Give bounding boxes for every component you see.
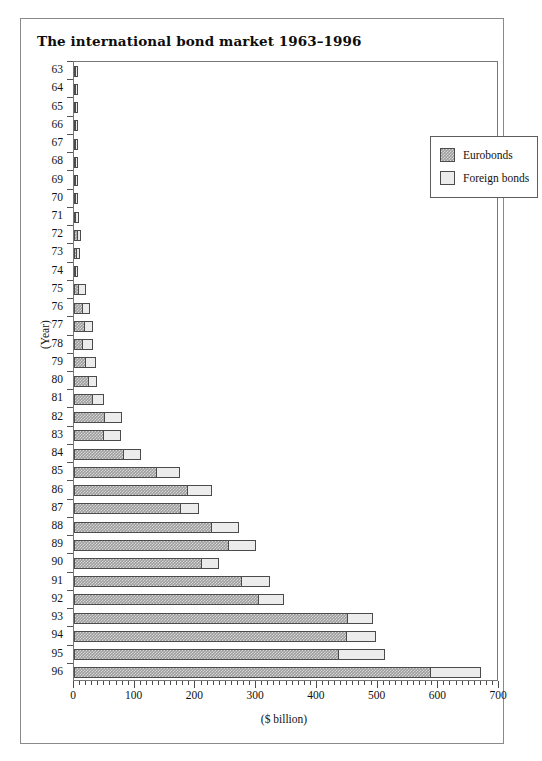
- x-axis-minor-tick: [103, 681, 104, 685]
- bar-segment-foreign-bonds: [202, 558, 219, 569]
- y-axis-tick-label: 69: [52, 174, 64, 185]
- bar-row: [74, 412, 122, 423]
- x-axis-major-tick: [437, 681, 438, 688]
- x-axis-minor-tick: [492, 681, 493, 685]
- bar-segment-eurobonds: [74, 594, 259, 605]
- bar-row: [74, 467, 180, 478]
- bar-row: [74, 376, 97, 387]
- bar-row: [74, 594, 284, 605]
- y-axis-tick-label: 67: [52, 137, 64, 148]
- bar-segment-foreign-bonds: [76, 157, 78, 168]
- x-axis-minor-tick: [286, 681, 287, 685]
- y-axis-tick-label: 71: [52, 210, 64, 221]
- bar-segment-eurobonds: [74, 430, 104, 441]
- bar-segment-foreign-bonds: [76, 175, 78, 186]
- x-axis-major-tick: [316, 681, 317, 688]
- y-axis-tick-label: 77: [52, 319, 64, 330]
- x-axis-major-tick: [255, 681, 256, 688]
- y-axis-tick-label: 82: [52, 411, 64, 422]
- bar-row: [74, 84, 78, 95]
- bar-row: [74, 157, 78, 168]
- x-axis-minor-tick: [91, 681, 92, 685]
- x-axis-tick-label: 0: [70, 689, 76, 701]
- bar-segment-foreign-bonds: [83, 303, 90, 314]
- chart-title: The international bond market 1963–1996: [37, 33, 362, 49]
- x-axis-minor-tick: [261, 681, 262, 685]
- x-axis-minor-tick: [462, 681, 463, 685]
- y-axis-tick-label: 66: [52, 119, 64, 130]
- x-axis-minor-tick: [152, 681, 153, 685]
- x-axis-minor-tick: [456, 681, 457, 685]
- y-axis-tick-label: 76: [52, 301, 64, 312]
- bar-row: [74, 540, 256, 551]
- x-axis-major-tick: [134, 681, 135, 688]
- x-axis-minor-tick: [383, 681, 384, 685]
- bar-segment-foreign-bonds: [105, 412, 122, 423]
- bar-segment-foreign-bonds: [259, 594, 285, 605]
- x-axis-minor-tick: [413, 681, 414, 685]
- bar-segment-eurobonds: [74, 631, 347, 642]
- x-axis-tick-label: 400: [307, 689, 324, 701]
- bar-segment-foreign-bonds: [85, 321, 93, 332]
- bar-row: [74, 266, 78, 277]
- bar-row: [74, 193, 78, 204]
- bar-segment-eurobonds: [74, 376, 89, 387]
- y-axis-tick-label: 84: [52, 447, 64, 458]
- eurobonds-swatch-icon: [440, 148, 455, 162]
- x-axis-major-tick: [498, 681, 499, 688]
- x-axis-minor-tick: [425, 681, 426, 685]
- bar-segment-foreign-bonds: [76, 266, 78, 277]
- y-axis-tick-label: 94: [52, 629, 64, 640]
- x-axis-minor-tick: [122, 681, 123, 685]
- bar-row: [74, 139, 78, 150]
- x-axis-minor-tick: [346, 681, 347, 685]
- y-axis-tick-label: 78: [52, 338, 64, 349]
- y-axis-tick-label: 79: [52, 356, 64, 367]
- bar-segment-foreign-bonds: [89, 376, 98, 387]
- x-axis-major-tick: [377, 681, 378, 688]
- y-axis-tick-label: 90: [52, 556, 64, 567]
- x-axis-minor-tick: [128, 681, 129, 685]
- x-axis-title: ($ billion): [21, 713, 542, 725]
- x-axis-minor-tick: [182, 681, 183, 685]
- bar-row: [74, 248, 80, 259]
- bar-row: [74, 522, 239, 533]
- bar-row: [74, 102, 78, 113]
- x-axis-minor-tick: [219, 681, 220, 685]
- bar-segment-eurobonds: [74, 576, 242, 587]
- x-axis-minor-tick: [267, 681, 268, 685]
- bar-row: [74, 649, 385, 660]
- plot-area: Eurobonds Foreign bonds: [73, 61, 498, 681]
- x-axis-minor-tick: [486, 681, 487, 685]
- bar-row: [74, 503, 199, 514]
- bar-segment-foreign-bonds: [76, 193, 78, 204]
- x-axis-major-tick: [194, 681, 195, 688]
- bar-row: [74, 667, 481, 678]
- legend-entry-foreign-bonds: Foreign bonds: [440, 171, 529, 185]
- y-axis-tick-label: 88: [52, 520, 64, 531]
- bar-segment-foreign-bonds: [93, 394, 104, 405]
- bar-row: [74, 120, 78, 131]
- x-axis-minor-tick: [340, 681, 341, 685]
- x-axis-minor-tick: [249, 681, 250, 685]
- x-axis-minor-tick: [292, 681, 293, 685]
- x-axis-minor-tick: [140, 681, 141, 685]
- bar-segment-eurobonds: [74, 357, 86, 368]
- x-axis-minor-tick: [468, 681, 469, 685]
- x-axis-minor-tick: [170, 681, 171, 685]
- x-axis-minor-tick: [201, 681, 202, 685]
- legend-entry-eurobonds: Eurobonds: [440, 148, 513, 162]
- x-axis-minor-tick: [449, 681, 450, 685]
- bar-segment-foreign-bonds: [157, 467, 181, 478]
- bar-segment-foreign-bonds: [79, 284, 85, 295]
- x-axis-minor-tick: [164, 681, 165, 685]
- x-axis-major-tick: [73, 681, 74, 688]
- bar-row: [74, 576, 270, 587]
- bar-row: [74, 394, 104, 405]
- x-axis-minor-tick: [176, 681, 177, 685]
- x-axis-minor-tick: [213, 681, 214, 685]
- bar-segment-eurobonds: [74, 649, 339, 660]
- bar-segment-eurobonds: [74, 667, 431, 678]
- bar-segment-foreign-bonds: [76, 139, 78, 150]
- y-axis-tick-label: 74: [52, 265, 64, 276]
